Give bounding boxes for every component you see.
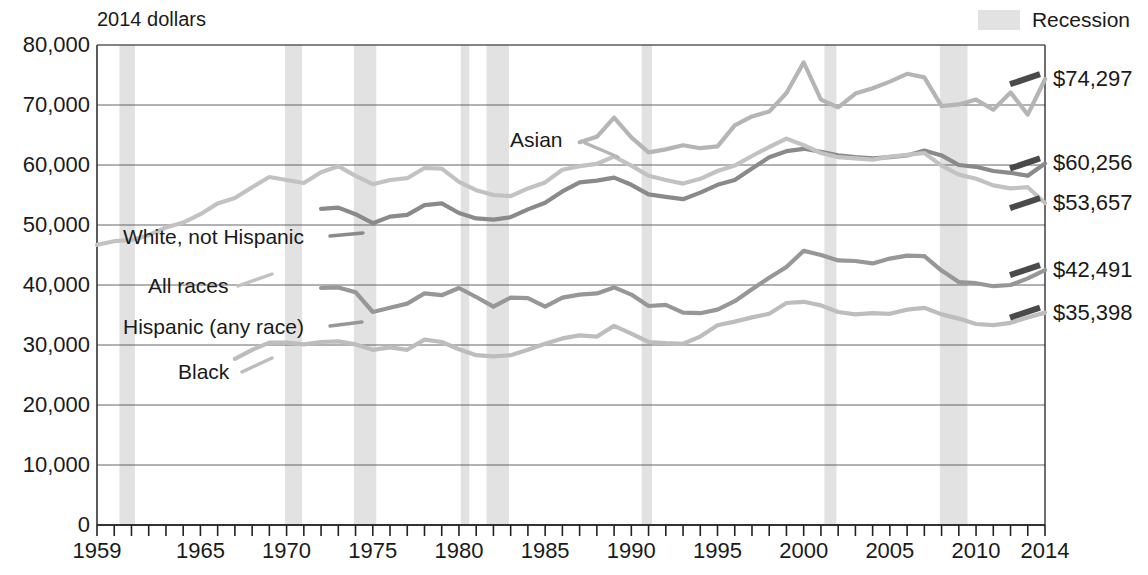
end-marker-dash [1010,74,1040,84]
x-axis-tick-label: 1970 [262,538,311,564]
x-axis-tick-label: 1990 [607,538,656,564]
series-label-asian: Asian [510,128,563,152]
y-axis-tick-label: 80,000 [23,32,90,58]
x-axis-tick-label: 1959 [73,538,122,564]
x-axis-tick-label: 1985 [521,538,570,564]
series-label-black: Black [178,360,229,384]
end-value-asian: $74,297 [1053,66,1133,92]
annotation-leader [242,358,272,372]
x-axis-tick-label: 1965 [176,538,225,564]
y-axis-tick-label: 30,000 [23,332,90,358]
x-axis-tick-label: 1980 [434,538,483,564]
series-line-hispanic-any-race [321,251,1045,313]
series-label-all-races: All races [148,274,229,298]
annotation-leader [585,143,618,157]
recession-swatch-icon [978,10,1020,30]
recession-legend-label: Recession [1032,8,1130,32]
units-caption: 2014 dollars [97,8,206,31]
y-axis-tick-label: 10,000 [23,452,90,478]
annotation-leader [238,274,272,286]
x-axis-ticks [97,525,1045,536]
end-value-hispanic: $42,491 [1053,257,1133,283]
x-axis-tick-label: 2005 [865,538,914,564]
end-value-black: $35,398 [1053,300,1133,326]
y-axis-tick-label: 0 [78,512,90,538]
x-axis-tick-label: 1975 [348,538,397,564]
y-axis-tick-label: 40,000 [23,272,90,298]
y-axis-tick-label: 20,000 [23,392,90,418]
end-value-all-races: $53,657 [1053,190,1133,216]
end-value-white-not-hispanic: $60,256 [1053,150,1133,176]
series-label-white-not-hispanic: White, not Hispanic [123,225,304,249]
x-axis-tick-label: 2014 [1021,538,1070,564]
x-axis-tick-label: 2000 [779,538,828,564]
y-axis-tick-label: 50,000 [23,212,90,238]
series-label-hispanic: Hispanic (any race) [123,315,304,339]
recession-legend: Recession [978,8,1130,32]
end-marker-dash [1010,198,1040,208]
y-axis-tick-label: 70,000 [23,92,90,118]
income-by-race-line-chart: 2014 dollars Recession 010,00020,00030,0… [0,0,1148,575]
end-marker-dash [1010,158,1040,168]
x-axis-tick-label: 1995 [693,538,742,564]
y-axis-tick-label: 60,000 [23,152,90,178]
x-axis-tick-label: 2010 [952,538,1001,564]
